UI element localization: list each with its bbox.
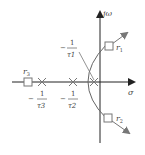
root-square-r2 — [104, 114, 112, 122]
imag-axis-label: jω — [101, 9, 112, 18]
svg-text:−: − — [28, 95, 34, 103]
root-label-r2: r2 — [116, 114, 123, 124]
root-label-r1: r1 — [116, 43, 123, 53]
pole-label-tau2: − 1 τ2 — [60, 90, 78, 110]
root-square-r3 — [24, 78, 32, 86]
real-axis-label: σ — [128, 88, 134, 97]
root-locus-diagram: jω σ r1 r2 r3 − 1 τ1 − 1 τ3 − 1 τ2 — [0, 0, 145, 155]
svg-text:1: 1 — [70, 39, 74, 47]
svg-text:−: − — [60, 95, 66, 103]
root-square-r1 — [105, 42, 113, 50]
svg-text:−: − — [60, 44, 66, 52]
svg-text:1: 1 — [40, 90, 44, 98]
root-label-r3: r3 — [23, 67, 30, 77]
svg-text:τ3: τ3 — [37, 102, 46, 110]
svg-text:1: 1 — [71, 90, 75, 98]
pole-label-tau3: − 1 τ3 — [28, 90, 47, 110]
svg-text:τ2: τ2 — [68, 102, 77, 110]
diagram-canvas: jω σ r1 r2 r3 − 1 τ1 − 1 τ3 − 1 τ2 — [0, 0, 145, 155]
svg-text:τ1: τ1 — [67, 51, 75, 59]
pole-label-tau1: − 1 τ1 — [60, 39, 77, 59]
